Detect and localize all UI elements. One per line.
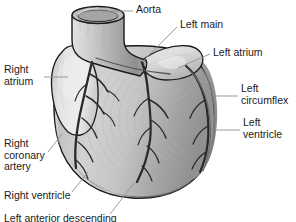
label-left-ventricle: Left ventricle	[243, 117, 282, 140]
label-left-circumflex: Left circumflex	[241, 83, 288, 106]
label-right-ventricle: Right ventricle	[4, 190, 71, 202]
label-right-coronary-artery: Right coronary artery	[4, 138, 45, 173]
label-left-atrium: Left atrium	[213, 47, 263, 59]
label-left-main: Left main	[180, 19, 223, 31]
heart-anatomy-figure: Aorta Left main Left atrium Right atrium…	[0, 0, 296, 222]
label-aorta: Aorta	[136, 4, 161, 16]
label-right-atrium: Right atrium	[4, 64, 33, 87]
label-left-anterior-descending: Left anterior descending	[4, 213, 117, 222]
